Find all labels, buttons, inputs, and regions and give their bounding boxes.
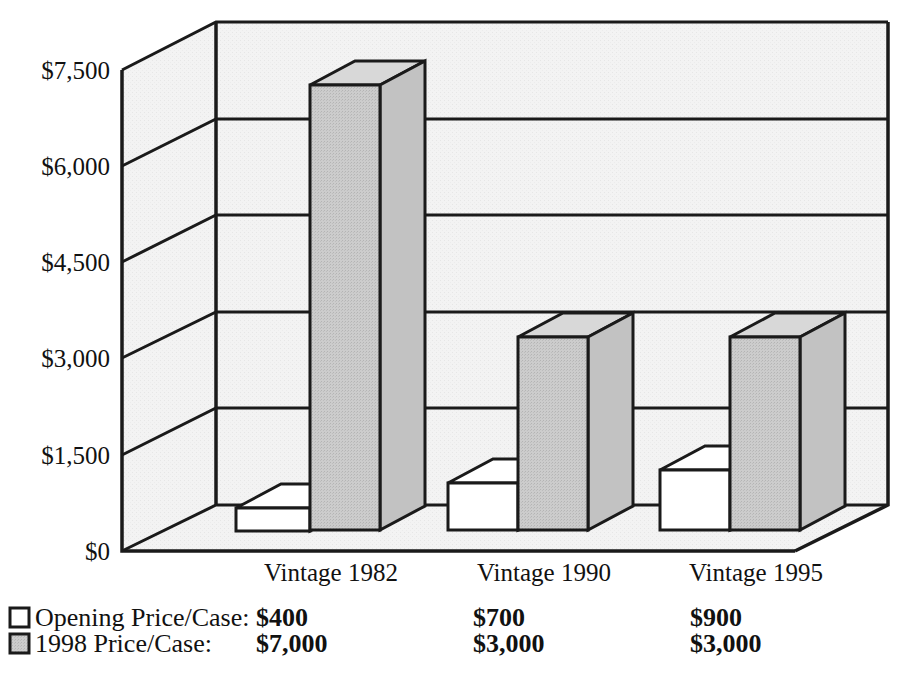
chart-container: $7,500 $6,000 $4,500 $3,000 $1,500 $0 Vi… (0, 0, 912, 678)
bar-front-face (236, 508, 310, 531)
bar-front-face (730, 337, 800, 530)
bar-front-face (660, 470, 730, 530)
category-label: Vintage 1990 (477, 559, 611, 586)
y-tick-label: $0 (85, 538, 110, 565)
x-axis-category-labels: Vintage 1982 Vintage 1990 Vintage 1995 (264, 559, 823, 586)
legend-swatch-white (10, 608, 29, 627)
bar-side-face (588, 313, 633, 530)
legend-label: 1998 Price/Case: (35, 629, 212, 658)
category-label: Vintage 1982 (264, 559, 398, 586)
legend-value-1982: $400 (256, 603, 308, 632)
bar-front-face (448, 483, 518, 530)
bar-side-face (800, 313, 845, 530)
legend-value-1982: $7,000 (256, 629, 328, 658)
left-wall-side (122, 22, 216, 551)
legend-swatch-gray (10, 634, 29, 653)
bar-1998-price-1982[interactable] (310, 61, 425, 530)
legend: Opening Price/Case: $400 $700 $900 1998 … (10, 603, 762, 658)
y-tick-label: $4,500 (41, 249, 110, 276)
bar-front-face (518, 337, 588, 530)
legend-row-opening-price[interactable]: Opening Price/Case: $400 $700 $900 (10, 603, 742, 632)
legend-value-1995: $900 (690, 603, 742, 632)
y-tick-label: $3,000 (41, 345, 110, 372)
bar-1998-price-1995[interactable] (730, 313, 845, 530)
y-axis-tick-labels: $7,500 $6,000 $4,500 $3,000 $1,500 $0 (41, 57, 110, 565)
category-label: Vintage 1995 (689, 559, 823, 586)
bar-front-face (310, 85, 380, 530)
y-tick-label: $7,500 (41, 57, 110, 84)
legend-value-1995: $3,000 (690, 629, 762, 658)
legend-value-1990: $3,000 (473, 629, 545, 658)
bar-1998-price-1990[interactable] (518, 313, 633, 530)
bar-side-face (380, 61, 425, 530)
legend-label: Opening Price/Case: (35, 603, 249, 632)
legend-value-1990: $700 (473, 603, 525, 632)
three-d-bar-chart: $7,500 $6,000 $4,500 $3,000 $1,500 $0 Vi… (0, 0, 912, 678)
y-tick-label: $6,000 (41, 153, 110, 180)
legend-row-1998-price[interactable]: 1998 Price/Case: $7,000 $3,000 $3,000 (10, 629, 762, 658)
y-tick-label: $1,500 (41, 442, 110, 469)
